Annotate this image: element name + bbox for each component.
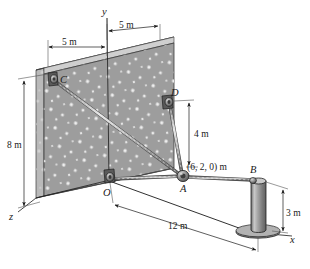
point-label-d: D [170,87,179,98]
axis-label-z: z [8,211,13,222]
dimension-label-wall-right: 5 m [119,20,134,30]
dimension-label-wall-left: 5 m [62,37,77,47]
dimension-label-d-to-a: 4 m [194,129,209,139]
dimension-label-o-to-post: 12 m [168,221,188,231]
post-assembly [236,178,280,239]
statics-diagram: 5 m 5 m 8 m 4 m 3 m [0,0,310,269]
axis-label-x: x [289,234,295,245]
axis-label-y: y [101,6,107,17]
annotation-a-coordinates: (6, 2, 0) m [187,162,227,173]
point-label-o: O [103,187,111,198]
ring-a [177,170,189,181]
point-label-c: C [60,74,68,85]
wall-left-side [36,68,44,198]
anchor-o [104,169,115,183]
anchor-c [48,72,58,86]
point-label-b: B [250,164,257,175]
dimension-wall-right-span: 5 m [107,18,160,40]
dimension-label-wall-height: 8 m [7,140,22,150]
figure-container: 5 m 5 m 8 m 4 m 3 m [0,0,310,269]
point-label-a: A [179,183,187,194]
dimension-label-post-height: 3 m [286,208,301,218]
cable-a-b [188,177,253,180]
